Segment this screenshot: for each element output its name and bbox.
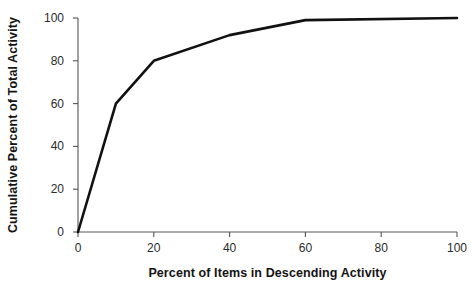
x-axis-ticks	[78, 232, 457, 237]
axis-lines	[78, 18, 457, 232]
x-tick-label-40: 40	[223, 241, 236, 255]
chart-figure: Cumulative Percent of Total Activity Per…	[0, 0, 474, 300]
y-axis-ticks	[73, 18, 78, 232]
x-tick-label-0: 0	[75, 241, 82, 255]
data-series-group	[78, 18, 457, 232]
x-tick-label-20: 20	[147, 241, 160, 255]
y-tick-label-80: 80	[38, 54, 64, 68]
y-axis-title: Cumulative Percent of Total Activity	[0, 9, 26, 241]
y-tick-label-20: 20	[38, 182, 64, 196]
x-axis-title: Percent of Items in Descending Activity	[78, 266, 457, 280]
x-tick-label-80: 80	[375, 241, 388, 255]
y-tick-label-60: 60	[38, 97, 64, 111]
x-tick-label-60: 60	[299, 241, 312, 255]
cumulative-activity-line	[78, 18, 457, 232]
y-tick-label-40: 40	[38, 139, 64, 153]
plot-canvas	[0, 0, 474, 300]
y-tick-label-0: 0	[38, 225, 64, 239]
y-tick-label-100: 100	[38, 11, 64, 25]
x-tick-label-100: 100	[447, 241, 467, 255]
